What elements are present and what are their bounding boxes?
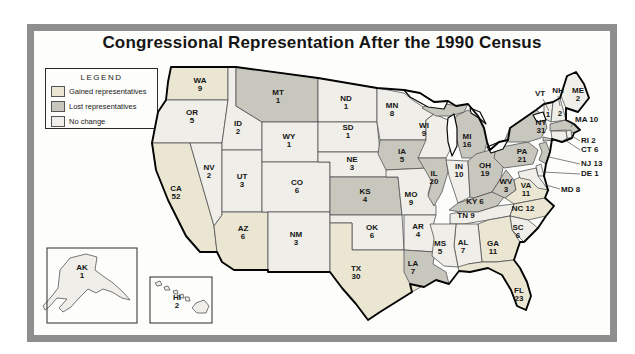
state-label-OR: 5 [190, 116, 195, 125]
state-label-TX: 30 [352, 272, 361, 281]
state-HI [155, 281, 162, 286]
state-label-ME: 2 [576, 94, 581, 103]
pointer-line-RI [572, 136, 580, 141]
state-label-NM: 3 [294, 238, 299, 247]
state-label-ID: 2 [236, 127, 241, 136]
state-HI [185, 297, 190, 301]
state-label-PA: 21 [518, 155, 527, 164]
state-label-NH: NH [552, 86, 564, 95]
state-label-SD: 1 [346, 131, 351, 140]
us-map: WA9OR5CA52NV2ID2UT3AZ6MT1WY1CO6NM3ND1SD1… [0, 0, 635, 354]
state-label-UT: 3 [240, 180, 245, 189]
state-label-NE: 3 [350, 163, 355, 172]
state-label-TN: TN 9 [457, 211, 475, 220]
state-label-OH: 19 [481, 169, 490, 178]
state-label-VT: 1 [546, 110, 551, 119]
state-label-MD: MD 8 [561, 185, 581, 194]
state-label-CO: 6 [295, 186, 300, 195]
state-HI [164, 286, 170, 290]
state-label-CA: 52 [172, 192, 181, 201]
state-label-ND: 1 [344, 102, 349, 111]
state-label-KS: 4 [363, 195, 368, 204]
state-label-NV: 2 [207, 171, 212, 180]
state-label-IL: 20 [430, 177, 439, 186]
state-label-NH: 2 [558, 109, 563, 118]
state-label-GA: 11 [489, 247, 498, 256]
state-label-AL: 7 [461, 246, 466, 255]
state-label-DE: DE 1 [581, 169, 599, 178]
state-label-RI: RI 2 [581, 136, 596, 145]
state-label-NJ: NJ 13 [581, 159, 603, 168]
state-label-CT: CT 6 [581, 145, 599, 154]
state-label-MO: 9 [409, 198, 414, 207]
state-label-WI: 9 [422, 129, 427, 138]
state-label-VA: 11 [522, 189, 531, 198]
state-label-MI: 16 [463, 140, 472, 149]
state-label-MS: 5 [438, 247, 443, 256]
state-label-NC: NC 12 [512, 204, 535, 213]
state-label-AR: 4 [416, 230, 421, 239]
state-label-WA: 9 [198, 84, 203, 93]
state-label-WV: 3 [504, 185, 509, 194]
state-label-MA: MA 10 [575, 115, 599, 124]
state-label-LA: 7 [411, 267, 416, 276]
state-HI [192, 300, 209, 313]
state-label-FL: 23 [515, 294, 524, 303]
state-label-AK: 1 [80, 271, 85, 280]
state-label-MN: 8 [390, 109, 395, 118]
state-AR [404, 215, 437, 252]
state-label-IA: 5 [400, 155, 405, 164]
state-label-OK: 6 [370, 231, 375, 240]
state-label-NY: 31 [537, 126, 546, 135]
pointer-line-CT [565, 140, 580, 150]
state-label-SC: 6 [516, 231, 521, 240]
state-label-MT: 1 [276, 96, 281, 105]
state-NJ [539, 142, 550, 164]
state-label-VT: VT [535, 89, 545, 98]
pointer-line-DE [543, 172, 580, 174]
figure-canvas: Congressional Representation After the 1… [0, 0, 635, 354]
state-label-WY: 1 [287, 140, 292, 149]
state-label-HI: 2 [175, 301, 180, 310]
state-label-IN: 10 [455, 170, 464, 179]
state-label-AZ: 6 [241, 232, 246, 241]
state-label-KY: KY 6 [466, 197, 484, 206]
state-NM [268, 212, 330, 272]
pointer-line-NJ [549, 157, 580, 164]
